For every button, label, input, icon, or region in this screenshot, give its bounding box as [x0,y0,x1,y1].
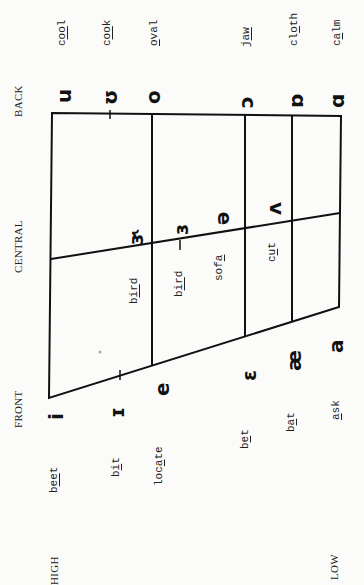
symbol-a: a [324,340,348,354]
axis-label-front: FRONT [12,390,24,428]
symbol-turned-a: ɒ [284,94,308,108]
axis-label-central: CENTRAL [12,220,24,273]
symbol-o: o [141,90,165,104]
example-bird: bird [173,271,185,297]
axis-label-low: LOW [328,554,340,580]
symbol-upsilon: ʊ [98,90,122,105]
example-bat: bat [285,412,297,432]
example-bird-r-colored: bird [128,278,140,304]
example-sofa: sofa [213,255,225,281]
example-calm: calm [331,20,343,46]
axis-label-back: BACK [12,85,24,117]
example-oval: oval [148,20,160,46]
axis-label-high: HIGH [48,556,60,585]
speck [99,351,102,354]
example-cloth: cloth [288,13,300,46]
symbol-reversed-epsilon: ɜ [169,224,193,235]
symbol-i: i [44,413,68,420]
symbol-ae: æ [282,350,306,371]
symbol-script-a: ɑ [325,94,349,108]
symbol-wedge: ʌ [262,202,286,215]
example-bet: bet [239,429,251,449]
vowel-chart: BACK CENTRAL FRONT HIGH LOW u ʊ o ɔ ɒ ɑ … [0,0,364,585]
symbol-r-colored-eps: ɝ [124,229,148,245]
symbol-schwa: ə [210,211,234,225]
central-divider-line [51,213,340,259]
example-cook: cook [101,20,113,46]
example-cool: cool [56,20,68,46]
example-jaw: jaw [240,27,252,47]
symbol-open-o: ɔ [234,96,258,108]
example-bit: bit [110,457,122,477]
example-beet: beet [48,467,60,493]
symbol-small-cap-i: ɪ [105,407,129,418]
example-ask: ask [330,400,342,420]
symbol-u: u [52,89,76,103]
symbol-e: e [150,382,174,396]
example-locate: locate [153,446,165,486]
symbol-epsilon: ɛ [237,370,261,381]
example-cut: cut [266,242,278,262]
